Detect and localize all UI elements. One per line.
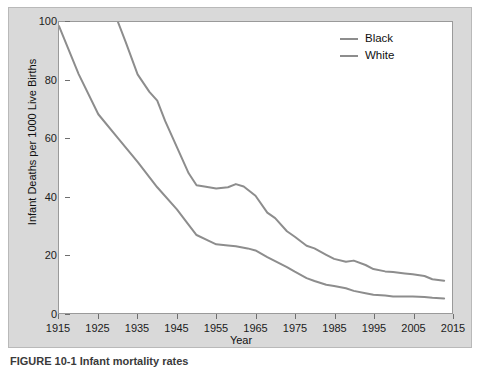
plot-area <box>58 21 453 314</box>
x-tick-mark <box>98 314 99 319</box>
y-tick-label: 100 <box>27 16 57 27</box>
x-tick-mark <box>453 314 454 319</box>
y-tick-mark <box>65 314 70 315</box>
x-tick-label: 1945 <box>164 323 188 334</box>
legend-label: White <box>365 50 394 62</box>
x-tick-mark <box>58 314 59 319</box>
y-tick-label: 0 <box>27 309 57 320</box>
figure-caption: FIGURE 10-1 Infant mortality rates <box>10 355 470 367</box>
y-tick-mark <box>65 80 70 81</box>
chart-legend: BlackWhite <box>340 30 436 64</box>
x-tick-mark <box>295 314 296 319</box>
y-tick-mark <box>65 255 70 256</box>
x-tick-mark <box>216 314 217 319</box>
line-chart-svg <box>59 22 452 313</box>
x-tick-label: 1985 <box>322 323 346 334</box>
legend-item-white: White <box>340 47 436 64</box>
series-line-white <box>59 26 444 298</box>
legend-item-black: Black <box>340 30 436 47</box>
figure-container: 020406080100 Infant Deaths per 1000 Live… <box>0 0 482 369</box>
x-tick-mark <box>137 314 138 319</box>
x-tick-mark <box>414 314 415 319</box>
chart-panel: 020406080100 Infant Deaths per 1000 Live… <box>8 7 472 348</box>
x-tick-label: 1955 <box>204 323 228 334</box>
x-tick-label: 1915 <box>46 323 70 334</box>
x-tick-mark <box>177 314 178 319</box>
x-tick-mark <box>335 314 336 319</box>
x-tick-mark <box>374 314 375 319</box>
x-tick-label: 1925 <box>85 323 109 334</box>
legend-label: Black <box>365 33 393 45</box>
legend-swatch-icon <box>340 38 358 40</box>
y-axis-title: Infant Deaths per 1000 Live Births <box>26 27 38 257</box>
x-tick-label: 1995 <box>362 323 386 334</box>
x-tick-label: 1935 <box>125 323 149 334</box>
x-tick-label: 1965 <box>243 323 267 334</box>
x-tick-label: 2015 <box>441 323 465 334</box>
x-axis-title: Year <box>9 334 473 346</box>
x-tick-label: 1975 <box>283 323 307 334</box>
y-tick-mark <box>65 197 70 198</box>
x-tick-label: 2005 <box>401 323 425 334</box>
y-tick-mark <box>65 138 70 139</box>
y-tick-mark <box>65 21 70 22</box>
x-tick-mark <box>256 314 257 319</box>
legend-swatch-icon <box>340 55 358 57</box>
